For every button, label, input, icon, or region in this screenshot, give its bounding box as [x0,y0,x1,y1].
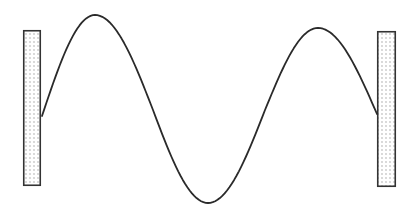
wave-curve [42,15,377,203]
right-wall [378,32,396,187]
diagram-canvas [0,0,412,214]
walls [24,31,396,187]
standing-wave-diagram: standing-wave-between-walls [0,0,412,214]
left-wall [24,31,41,186]
